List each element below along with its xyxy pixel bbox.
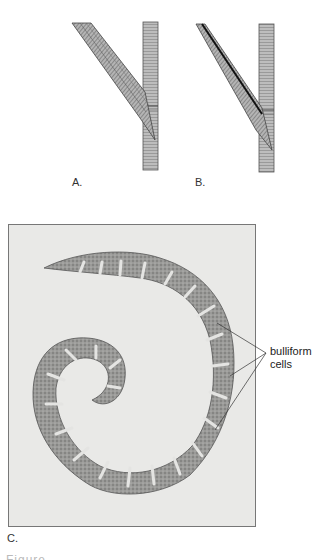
callout-line-2: cells <box>270 358 312 371</box>
bulliform-cells-label: bulliform cells <box>270 345 312 371</box>
leaf-tissue-band <box>33 252 234 494</box>
callout-line-1: bulliform <box>270 345 312 358</box>
panel-c-label: C. <box>7 532 18 544</box>
caption-partial: Figure ... <box>6 553 63 560</box>
leaf-cross-section-micrograph <box>0 0 319 560</box>
